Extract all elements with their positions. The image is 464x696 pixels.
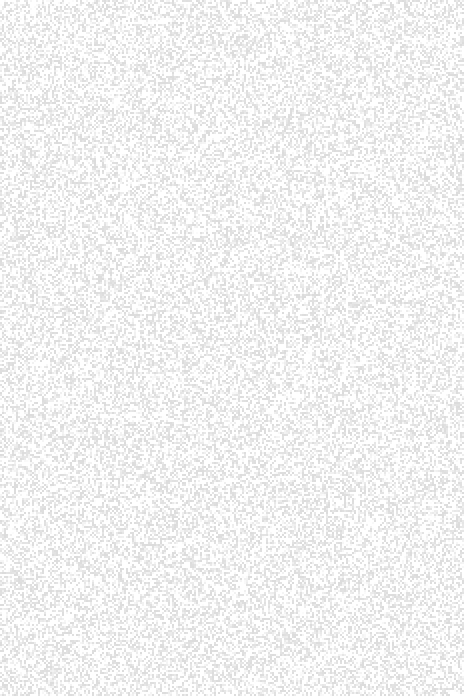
noise-texture-surface [0,0,464,696]
